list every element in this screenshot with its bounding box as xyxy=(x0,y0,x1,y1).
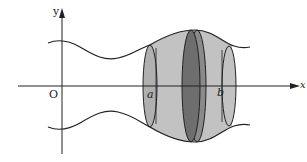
y-axis-label: y xyxy=(53,5,59,18)
b-label: b xyxy=(217,86,224,99)
origin-label: O xyxy=(49,88,58,101)
solid-of-revolution-figure xyxy=(0,0,307,162)
diagram: y x O a b xyxy=(0,0,307,162)
x-axis-label: x xyxy=(300,79,306,90)
a-label: a xyxy=(147,88,154,101)
